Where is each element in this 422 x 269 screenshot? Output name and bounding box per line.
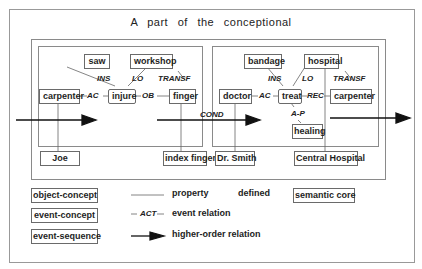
node-finger: finger	[169, 89, 196, 104]
relation-ins: INS	[97, 74, 110, 83]
legend-act-label: ACT	[140, 209, 156, 218]
legend-event-concept: event-concept	[31, 208, 98, 223]
legend-object-concept: object-concept	[31, 188, 98, 203]
property-central-hospital: Central Hospital	[294, 151, 358, 166]
node-treat: treat	[278, 89, 302, 104]
higher-order-label-cond: COND	[200, 110, 224, 119]
relation-ac-right: AC	[259, 91, 271, 100]
node-doctor: doctor	[219, 89, 252, 104]
node-workshop: workshop	[130, 54, 173, 69]
node-healing: healing	[292, 124, 323, 139]
legend-semantic-core: semantic core	[293, 188, 355, 203]
relation-lo: LO	[132, 74, 143, 83]
node-carpenter-right: carpenter	[330, 89, 372, 104]
relation-ap: A-P	[291, 109, 305, 118]
legend-defined: defined	[238, 188, 270, 198]
node-bandage: bandage	[244, 54, 282, 69]
relation-ins-right: INS	[268, 74, 281, 83]
property-dr-smith: Dr. Smith	[215, 151, 255, 166]
relation-ob: OB	[142, 91, 154, 100]
relation-rec: REC	[307, 91, 324, 100]
relation-transf-right: TRANSF	[333, 74, 365, 83]
legend-event-relation: event relation	[172, 208, 231, 218]
node-hospital: hospital	[304, 54, 339, 69]
relation-lo-right: LO	[302, 74, 313, 83]
legend-higher-order-relation: higher-order relation	[172, 229, 261, 239]
property-joe: Joe	[40, 151, 80, 166]
relation-transf: TRANSF	[158, 74, 190, 83]
legend-property: property	[172, 188, 209, 198]
property-index-finger: index finger	[163, 151, 207, 166]
legend-event-sequence: event-sequence	[31, 229, 98, 244]
node-carpenter: carpenter	[39, 89, 80, 104]
node-injure: injure	[108, 89, 136, 104]
node-saw: saw	[84, 54, 110, 69]
relation-ac: AC	[87, 91, 99, 100]
